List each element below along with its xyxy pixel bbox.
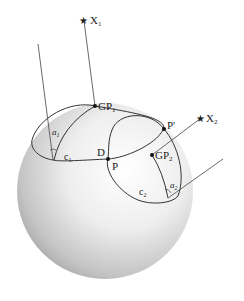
- label-x1: X1: [90, 14, 102, 28]
- label-gp1: GP1: [98, 100, 116, 114]
- ray-x1-to-gp1: [84, 21, 95, 106]
- point-p-prime: [162, 127, 166, 131]
- label-d: D: [97, 146, 105, 158]
- point-p: [106, 157, 110, 161]
- gp2-point: [150, 153, 154, 157]
- celestial-sphere-diagram: ★ ★ X1 X2 GP1 GP2 a1 a2 c1 c2 D P P': [0, 0, 244, 301]
- label-p: P: [112, 160, 118, 172]
- gp1-point: [93, 104, 97, 108]
- star-icon-x1: ★: [79, 15, 88, 26]
- star-icon-x2: ★: [196, 113, 205, 124]
- label-x2: X2: [206, 112, 218, 126]
- label-p-prime: P': [167, 119, 175, 131]
